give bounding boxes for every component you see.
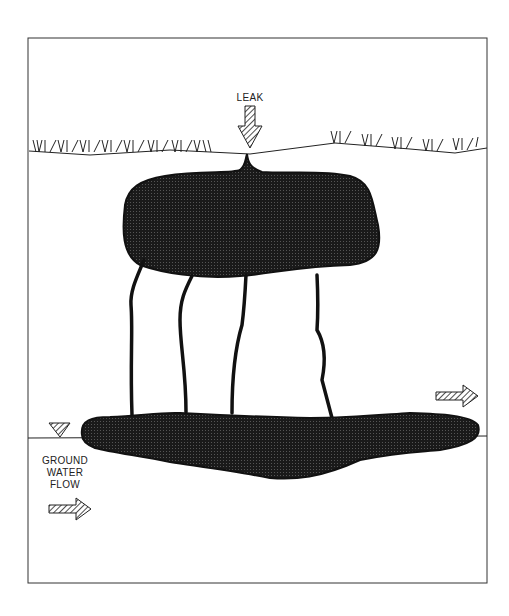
water-table-symbol-icon [49,423,70,437]
groundwater-flow-arrow-icon [49,498,91,520]
label-line: GROUND [34,455,96,467]
label-line: FLOW [34,479,96,491]
contaminant-fingers [131,260,332,418]
leak-arrow-icon [238,106,262,148]
grass-icon [331,131,478,151]
ground-water-flow-label: GROUND WATER FLOW [34,455,96,491]
grass-icon [33,140,211,152]
lower-contaminant-plume [82,413,479,479]
diagram-frame [28,38,487,583]
label-line: WATER [34,467,96,479]
groundwater-flow-arrow-icon [436,385,478,407]
upper-contaminant-plume [124,154,380,277]
leak-label: LEAK [233,92,267,104]
